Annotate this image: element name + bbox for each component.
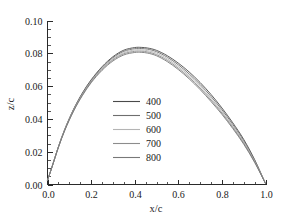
chart-plot-area: 0.000.020.040.060.080.10 0.00.20.40.60.8… (0, 0, 286, 217)
y-axis-title: z/c (5, 98, 16, 111)
x-axis-ticks (49, 180, 267, 185)
x-tick-label: 0.2 (85, 189, 98, 200)
legend-label-700: 700 (146, 138, 161, 149)
y-tick-label: 0.02 (25, 147, 43, 158)
y-axis-tick-labels: 0.000.020.040.060.080.10 (25, 16, 43, 191)
chart-figure: 0.000.020.040.060.080.10 0.00.20.40.60.8… (0, 0, 286, 217)
x-axis-title: x/c (150, 203, 163, 214)
y-tick-label: 0.06 (25, 81, 43, 92)
x-tick-label: 0.4 (129, 189, 142, 200)
y-tick-label: 0.10 (25, 16, 43, 27)
x-axis-tick-labels: 0.00.20.40.60.81.0 (42, 189, 273, 200)
y-tick-label: 0.08 (25, 48, 43, 59)
chart-legend: 400500600700800 (113, 96, 161, 163)
legend-label-500: 500 (146, 110, 161, 121)
x-tick-label: 1.0 (260, 189, 273, 200)
y-axis-ticks (48, 22, 53, 186)
x-tick-label: 0.0 (42, 189, 55, 200)
legend-label-400: 400 (146, 96, 161, 107)
y-tick-label: 0.04 (25, 114, 43, 125)
y-tick-label: 0.00 (25, 180, 43, 191)
legend-label-600: 600 (146, 124, 161, 135)
legend-label-800: 800 (146, 152, 161, 163)
x-tick-label: 0.6 (172, 189, 185, 200)
x-tick-label: 0.8 (216, 189, 229, 200)
